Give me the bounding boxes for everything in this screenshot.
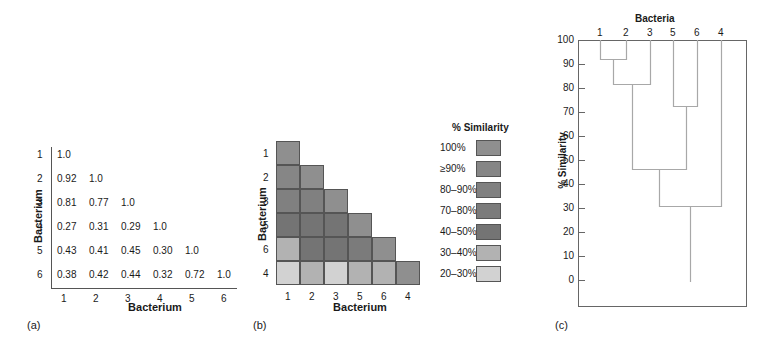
dendrogram-branches bbox=[601, 40, 722, 282]
panel-c-label: (c) bbox=[555, 319, 568, 331]
dendrogram-plot bbox=[0, 0, 767, 349]
